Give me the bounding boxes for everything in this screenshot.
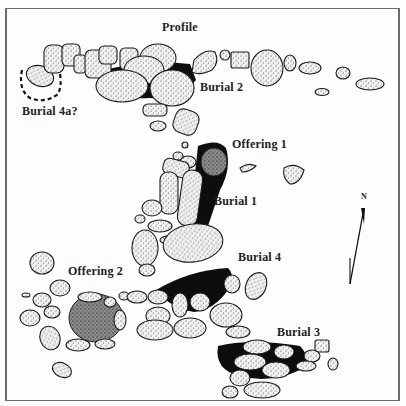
label-burial-3: Burial 3 [277, 325, 320, 340]
label-burial-1: Burial 1 [214, 194, 257, 209]
label-offering-1: Offering 1 [232, 137, 287, 152]
site-plan-drawing [0, 0, 406, 406]
label-burial-2: Burial 2 [200, 80, 243, 95]
label-offering-2: Offering 2 [68, 264, 123, 279]
north-arrow-label: N [361, 192, 367, 201]
offering-1-vessel [201, 148, 227, 176]
label-profile: Profile [162, 20, 198, 35]
label-burial-4a: Burial 4a? [22, 104, 78, 119]
north-arrow-icon [350, 208, 365, 284]
label-burial-4: Burial 4 [238, 250, 281, 265]
